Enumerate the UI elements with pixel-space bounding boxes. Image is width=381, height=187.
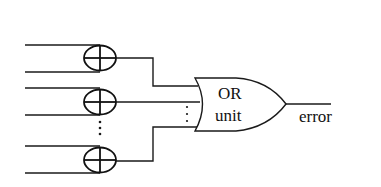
circuit-diagram: OR unit error: [0, 0, 381, 187]
or-gate: OR unit: [195, 78, 286, 131]
xor-unit-2: [25, 88, 200, 115]
xor-icon: [84, 46, 116, 71]
xor-unit-n: [25, 127, 198, 173]
xor-1-output-wire: [116, 58, 198, 86]
error-output-label: error: [299, 107, 332, 126]
xor-icon: [84, 148, 116, 173]
xor-unit-1: [25, 45, 198, 86]
or-gate-label-line2: unit: [215, 106, 242, 125]
vertical-ellipsis-icon: [186, 106, 188, 122]
vertical-ellipsis-icon: [99, 121, 102, 136]
or-gate-label-line1: OR: [218, 84, 242, 103]
xor-icon: [84, 90, 116, 115]
xor-n-output-wire: [116, 127, 198, 161]
